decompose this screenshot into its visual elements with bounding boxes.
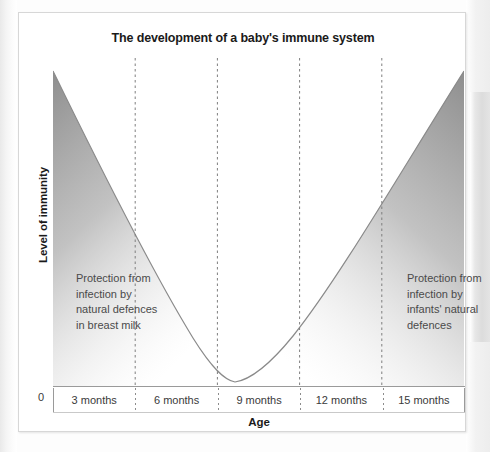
x-axis-tick-row-baseline [53, 412, 465, 413]
immunity-area-left-fill [53, 71, 235, 386]
x-tick-15-months: 15 months [383, 387, 465, 413]
x-tick-12-months: 12 months [300, 387, 382, 413]
immunity-curve-svg [53, 58, 464, 386]
annotation-breast-milk: Protection from infection by natural def… [76, 271, 164, 333]
x-axis-title: Age [53, 416, 465, 428]
y-axis-title: Level of immunity [37, 155, 49, 275]
chart-title: The development of a baby's immune syste… [19, 31, 467, 45]
immunity-area-right-fill [235, 71, 464, 386]
page-left-edge [0, 0, 17, 452]
chart-figure-card: The development of a baby's immune syste… [18, 12, 466, 432]
x-axis-origin-label: 0 [31, 391, 51, 403]
x-axis-tick-row: 3 months 6 months 9 months 12 months 15 … [53, 387, 465, 413]
x-tick-9-months: 9 months [218, 387, 300, 413]
plot-area [53, 58, 464, 386]
x-tick-3-months: 3 months [53, 387, 135, 413]
x-tick-6-months: 6 months [135, 387, 217, 413]
annotation-infant-defences: Protection from infection by infants' na… [407, 271, 490, 333]
